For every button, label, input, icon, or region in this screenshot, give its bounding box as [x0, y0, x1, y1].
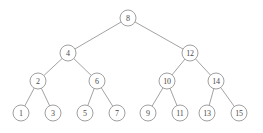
tree-edge	[74, 59, 91, 76]
node-label: 3	[51, 109, 55, 118]
tree-edge	[195, 59, 210, 75]
node-label: 1	[19, 109, 23, 118]
node-layer: 841226101413579111315	[13, 10, 247, 121]
tree-node: 14	[208, 73, 224, 89]
tree-node: 2	[30, 73, 46, 89]
tree-node: 11	[172, 105, 188, 121]
node-label: 13	[203, 109, 211, 118]
node-label: 9	[146, 109, 150, 118]
node-label: 11	[176, 109, 184, 118]
tree-canvas: 841226101413579111315	[0, 0, 263, 133]
tree-node: 5	[77, 105, 93, 121]
tree-edge	[170, 88, 177, 105]
tree-edge	[25, 88, 35, 106]
node-label: 4	[66, 49, 70, 58]
tree-node: 3	[45, 105, 61, 121]
tree-edge	[221, 88, 235, 107]
tree-edge	[88, 88, 94, 105]
tree-edge	[41, 88, 49, 106]
tree-node: 4	[60, 45, 76, 61]
tree-edge	[152, 88, 163, 106]
edge-layer	[25, 22, 235, 107]
tree-edge	[75, 22, 121, 49]
tree-node: 1	[13, 105, 29, 121]
node-label: 15	[235, 109, 243, 118]
tree-node: 6	[89, 73, 105, 89]
tree-edge	[101, 88, 113, 106]
tree-edge	[172, 59, 185, 75]
node-label: 7	[115, 109, 119, 118]
node-label: 8	[126, 14, 130, 23]
node-label: 14	[212, 77, 220, 86]
tree-node: 8	[120, 10, 136, 26]
node-label: 2	[36, 77, 40, 86]
tree-edge	[209, 89, 214, 106]
tree-node: 13	[199, 105, 215, 121]
node-label: 10	[163, 77, 171, 86]
node-label: 5	[83, 109, 87, 118]
node-label: 6	[95, 77, 99, 86]
tree-node: 12	[182, 45, 198, 61]
tree-node: 15	[231, 105, 247, 121]
tree-edge	[135, 22, 183, 49]
tree-node: 9	[140, 105, 156, 121]
binary-search-tree-figure: 841226101413579111315	[0, 0, 263, 133]
tree-node: 7	[109, 105, 125, 121]
tree-edge	[44, 58, 62, 75]
tree-node: 10	[159, 73, 175, 89]
node-label: 12	[186, 49, 194, 58]
